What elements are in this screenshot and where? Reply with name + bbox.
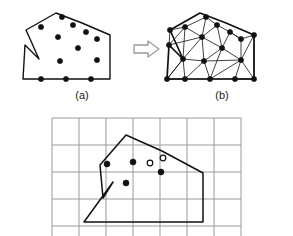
triangulation-vertex — [182, 24, 187, 29]
triangulation-vertex — [199, 34, 204, 39]
triangulation-vertex — [201, 58, 206, 63]
triangulation-vertex — [167, 27, 172, 32]
boundary-point — [59, 14, 64, 19]
boundary-point — [70, 22, 75, 27]
filled-sample-point — [130, 159, 136, 165]
boundary-point — [38, 76, 43, 81]
hollow-sample-point — [160, 155, 166, 161]
triangulation-vertex — [251, 32, 256, 37]
panel-a-caption: (a) — [75, 89, 88, 101]
boundary-point — [83, 29, 88, 34]
triangulation-vertex — [164, 76, 169, 81]
triangulation-vertex — [203, 14, 208, 19]
triangulation-vertex — [180, 56, 185, 61]
triangulation-vertex — [166, 42, 171, 47]
triangulation-vertex — [207, 76, 212, 81]
filled-sample-point — [158, 169, 164, 175]
triangulation-vertex — [219, 45, 224, 50]
triangulation-vertex — [182, 76, 187, 81]
boundary-point — [38, 24, 43, 29]
panel-b-caption: (b) — [215, 89, 228, 101]
interior-point — [55, 34, 60, 39]
filled-sample-point — [104, 161, 110, 167]
interior-point — [94, 57, 99, 62]
interior-point — [57, 58, 62, 63]
interior-point — [75, 45, 80, 50]
triangulation-vertex — [232, 76, 237, 81]
filled-sample-point — [123, 180, 129, 186]
boundary-point — [88, 76, 93, 81]
geometry-figure-svg: (a) (b) — [0, 0, 293, 236]
triangulation-vertex — [251, 76, 256, 81]
triangulation-vertex — [227, 29, 232, 34]
triangulation-vertex — [214, 22, 219, 27]
figure-root: (a) (b) — [0, 0, 293, 236]
boundary-point — [63, 76, 68, 81]
triangulation-vertex — [238, 36, 243, 41]
hollow-sample-point — [147, 160, 153, 166]
triangulation-vertex — [238, 57, 243, 62]
boundary-point — [94, 36, 99, 41]
